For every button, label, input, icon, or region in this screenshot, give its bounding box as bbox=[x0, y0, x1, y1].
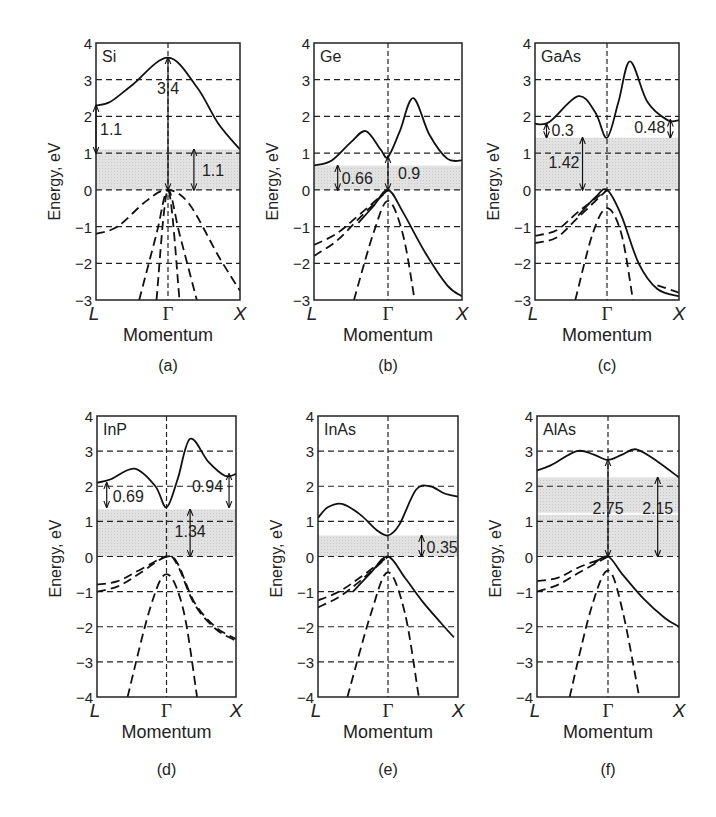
x-tick-label-X: X bbox=[229, 700, 244, 721]
gap-value-label: 1.34 bbox=[175, 523, 206, 540]
y-tick-label: −2 bbox=[297, 619, 314, 636]
panel-label: (d) bbox=[157, 761, 177, 778]
y-axis-label: Energy, eV bbox=[487, 519, 504, 597]
y-tick-label: 4 bbox=[302, 35, 310, 52]
gap-value-label: 0.69 bbox=[113, 488, 144, 505]
x-tick-label-X: X bbox=[672, 700, 687, 721]
material-label: Ge bbox=[320, 48, 341, 65]
y-tick-label: 3 bbox=[84, 72, 92, 89]
gap-value-label: 0.35 bbox=[427, 539, 458, 556]
y-tick-label: −1 bbox=[76, 584, 93, 601]
y-tick-label: 4 bbox=[85, 408, 93, 425]
x-axis-label: Momentum bbox=[343, 325, 433, 345]
panel-label: (c) bbox=[598, 357, 617, 374]
y-tick-label: 1 bbox=[85, 513, 93, 530]
y-tick-label: −2 bbox=[516, 619, 533, 636]
y-tick-label: 4 bbox=[84, 35, 92, 52]
gap-value-label: 1.42 bbox=[548, 154, 579, 171]
gap-value-label: 0.9 bbox=[398, 165, 420, 182]
y-tick-label: −1 bbox=[514, 219, 531, 236]
x-tick-label-X: X bbox=[233, 303, 248, 324]
y-tick-label: 3 bbox=[302, 72, 310, 89]
y-axis-label: Energy, eV bbox=[485, 142, 502, 220]
y-tick-label: 2 bbox=[84, 108, 92, 125]
panel-si: 43210−1−2−3LΓXMomentumEnergy, eV(a)Si1.1… bbox=[46, 35, 248, 374]
panel-inas: 43210−1−2−3−4LΓXMomentumEnergy, eV(e)InA… bbox=[268, 408, 466, 778]
y-tick-label: 3 bbox=[523, 72, 531, 89]
material-label: GaAs bbox=[541, 48, 581, 65]
gap-value-label: 2.75 bbox=[592, 500, 623, 517]
x-axis-label: Momentum bbox=[562, 325, 652, 345]
y-tick-label: −1 bbox=[516, 584, 533, 601]
y-axis-label: Energy, eV bbox=[264, 142, 281, 220]
material-label: InAs bbox=[324, 421, 356, 438]
y-tick-label: 2 bbox=[306, 478, 314, 495]
y-tick-label: −2 bbox=[75, 255, 92, 272]
x-tick-label-gamma: Γ bbox=[602, 303, 613, 324]
x-tick-label-X: X bbox=[672, 303, 687, 324]
y-tick-label: 3 bbox=[85, 443, 93, 460]
y-tick-label: −2 bbox=[76, 619, 93, 636]
y-tick-label: 2 bbox=[525, 478, 533, 495]
y-tick-label: 0 bbox=[84, 182, 92, 199]
gap-value-label: 0.48 bbox=[634, 119, 665, 136]
panel-label: (b) bbox=[378, 357, 398, 374]
y-tick-label: 3 bbox=[525, 443, 533, 460]
y-tick-label: 0 bbox=[85, 549, 93, 566]
y-tick-label: −1 bbox=[293, 219, 310, 236]
gap-value-label: 0.94 bbox=[192, 478, 223, 495]
gap-value-label: 2.15 bbox=[642, 500, 673, 517]
panel-label: (a) bbox=[158, 357, 178, 374]
y-tick-label: 1 bbox=[306, 513, 314, 530]
x-tick-label-X: X bbox=[455, 303, 470, 324]
y-tick-label: 4 bbox=[525, 408, 533, 425]
panel-label: (f) bbox=[600, 761, 615, 778]
valence-band-line-4 bbox=[570, 571, 640, 697]
valence-band-line-2 bbox=[318, 557, 388, 601]
valence-band-line-1 bbox=[358, 190, 462, 297]
y-tick-label: 1 bbox=[525, 513, 533, 530]
gap-value-label: 0.3 bbox=[552, 122, 574, 139]
y-tick-label: 0 bbox=[525, 549, 533, 566]
x-tick-label-L: L bbox=[530, 700, 541, 721]
valence-band-line-2 bbox=[314, 190, 388, 245]
material-label: Si bbox=[102, 48, 116, 65]
y-tick-label: −1 bbox=[75, 219, 92, 236]
gap-value-label: 1.1 bbox=[202, 162, 224, 179]
x-tick-label-L: L bbox=[528, 303, 539, 324]
y-tick-label: 3 bbox=[306, 443, 314, 460]
panel-ge: 43210−1−2−3LΓXMomentumEnergy, eV(b)Ge0.6… bbox=[264, 35, 470, 374]
y-tick-label: 1 bbox=[523, 145, 531, 162]
y-tick-label: 4 bbox=[306, 408, 314, 425]
gap-value-label: 3.4 bbox=[157, 80, 179, 97]
valence-band-line-3 bbox=[128, 574, 198, 697]
x-axis-label: Momentum bbox=[123, 325, 213, 345]
valence-band-line-1 bbox=[594, 556, 679, 627]
x-tick-label-gamma: Γ bbox=[383, 303, 394, 324]
band-structure-figure: 43210−1−2−3LΓXMomentumEnergy, eV(a)Si1.1… bbox=[0, 0, 716, 817]
x-axis-label: Momentum bbox=[343, 722, 433, 742]
gap-value-label: 1.1 bbox=[100, 121, 122, 138]
y-tick-label: −2 bbox=[514, 255, 531, 272]
x-tick-label-X: X bbox=[451, 700, 466, 721]
valence-band-line-1 bbox=[578, 189, 679, 296]
x-tick-label-gamma: Γ bbox=[163, 303, 174, 324]
panel-alas: 43210−1−2−3−4LΓXMomentumEnergy, eV(f)AlA… bbox=[487, 408, 687, 778]
y-tick-label: 0 bbox=[523, 182, 531, 199]
y-tick-label: 2 bbox=[523, 108, 531, 125]
y-tick-label: 1 bbox=[302, 145, 310, 162]
x-tick-label-gamma: Γ bbox=[161, 700, 172, 721]
x-axis-label: Momentum bbox=[563, 722, 653, 742]
y-axis-label: Energy, eV bbox=[46, 142, 63, 220]
y-tick-label: 2 bbox=[85, 478, 93, 495]
x-tick-label-L: L bbox=[307, 303, 318, 324]
material-label: InP bbox=[103, 421, 127, 438]
y-tick-label: −3 bbox=[76, 654, 93, 671]
y-axis-label: Energy, eV bbox=[47, 519, 64, 597]
x-axis-label: Momentum bbox=[121, 722, 211, 742]
panel-gaas: 43210−1−2−3LΓXMomentumEnergy, eV(c)GaAs0… bbox=[485, 35, 687, 374]
gap-value-label: 0.66 bbox=[342, 170, 373, 187]
y-tick-label: −2 bbox=[293, 255, 310, 272]
material-label: AlAs bbox=[543, 421, 576, 438]
valence-band-line-2 bbox=[537, 557, 608, 582]
